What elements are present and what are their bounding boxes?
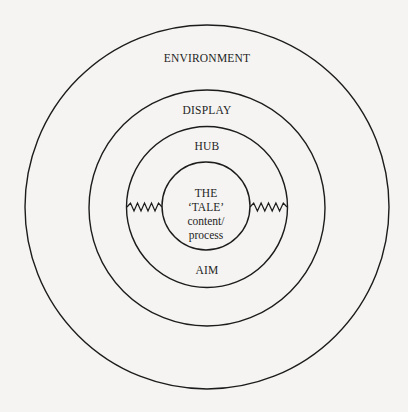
diagram-canvas: ENVIRONMENT DISPLAY HUB AIM THE ‘TALE’ c… — [0, 0, 408, 412]
environment-label: ENVIRONMENT — [164, 52, 251, 64]
core-line-content: content/ — [187, 215, 225, 227]
core-line-process: process — [189, 229, 224, 242]
right-zigzag-connector — [250, 203, 287, 211]
core-line-the: THE — [195, 187, 217, 199]
display-label: DISPLAY — [183, 104, 232, 116]
hub-label: HUB — [195, 140, 220, 152]
core-line-tale: ‘TALE’ — [188, 201, 224, 213]
concentric-diagram: ENVIRONMENT DISPLAY HUB AIM THE ‘TALE’ c… — [0, 0, 408, 412]
aim-label: AIM — [196, 264, 219, 276]
left-zigzag-connector — [127, 203, 162, 211]
